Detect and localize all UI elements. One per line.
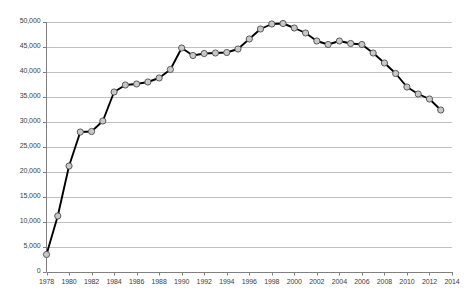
- data-point-marker: [134, 81, 140, 87]
- x-axis-tick-label: 2014: [438, 278, 466, 285]
- chart-plot-area: [0, 0, 474, 297]
- data-point-marker: [156, 75, 162, 81]
- data-point-marker: [145, 79, 151, 85]
- data-point-marker: [359, 41, 365, 47]
- data-point-marker: [314, 38, 320, 44]
- y-axis-tick-label: 45,000: [0, 42, 41, 49]
- data-point-marker: [88, 128, 94, 134]
- data-point-marker: [370, 50, 376, 56]
- data-point-marker: [100, 118, 106, 124]
- data-point-marker: [348, 40, 354, 46]
- y-axis-tick-label: 40,000: [0, 67, 41, 74]
- data-point-marker: [179, 45, 185, 51]
- data-point-marker: [426, 96, 432, 102]
- data-point-marker: [438, 107, 444, 113]
- data-point-marker: [291, 25, 297, 31]
- y-axis-tick-label: 5,000: [0, 242, 41, 249]
- data-point-marker: [393, 70, 399, 76]
- data-point-marker: [404, 84, 410, 90]
- y-axis-tick-label: 15,000: [0, 192, 41, 199]
- data-point-marker: [415, 91, 421, 97]
- data-point-marker: [280, 20, 286, 26]
- y-axis-tick-label: 20,000: [0, 167, 41, 174]
- data-point-marker: [269, 21, 275, 27]
- data-point-marker: [190, 52, 196, 58]
- y-axis-tick-label: 0: [0, 267, 41, 274]
- data-point-marker: [336, 38, 342, 44]
- data-point-marker: [77, 129, 83, 135]
- data-point-marker: [66, 163, 72, 169]
- data-point-marker: [122, 82, 128, 88]
- line-chart: 05,00010,00015,00020,00025,00030,00035,0…: [0, 0, 474, 297]
- data-series-line: [47, 24, 441, 255]
- y-axis-ticks: [43, 23, 47, 273]
- data-point-marker: [201, 50, 207, 56]
- data-point-marker: [246, 36, 252, 42]
- data-point-marker: [111, 89, 117, 95]
- data-point-marker: [325, 41, 331, 47]
- data-point-marker: [212, 50, 218, 56]
- data-point-marker: [302, 30, 308, 36]
- gridlines: [47, 23, 453, 248]
- y-axis-tick-label: 30,000: [0, 117, 41, 124]
- data-point-marker: [55, 213, 61, 219]
- data-point-marker: [43, 251, 49, 257]
- y-axis-tick-label: 35,000: [0, 92, 41, 99]
- data-point-marker: [257, 26, 263, 32]
- data-point-marker: [224, 49, 230, 55]
- y-axis-tick-label: 25,000: [0, 142, 41, 149]
- y-axis-tick-label: 10,000: [0, 217, 41, 224]
- data-point-marker: [167, 66, 173, 72]
- y-axis-tick-label: 50,000: [0, 17, 41, 24]
- data-point-marker: [235, 46, 241, 52]
- data-point-marker: [381, 60, 387, 66]
